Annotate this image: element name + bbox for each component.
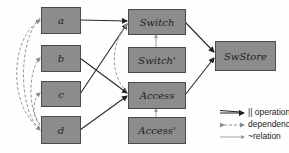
legend-lines <box>220 111 244 138</box>
node-access-prime: Access' <box>128 117 186 144</box>
node-c-label: c <box>58 89 64 100</box>
edge-d-c <box>34 93 40 124</box>
legend-operation: || operation <box>248 107 289 117</box>
node-a: a <box>41 7 81 34</box>
node-c: c <box>41 81 81 107</box>
node-swstore: SwStore <box>215 41 276 71</box>
edge-d-access <box>80 96 127 130</box>
node-b: b <box>41 45 81 72</box>
edge-switch-swstore <box>185 22 214 52</box>
legend-relation: ~relation <box>248 131 281 141</box>
edge-access-switch <box>114 24 127 92</box>
edge-a-switch <box>80 20 127 21</box>
edge-d-a <box>17 20 40 128</box>
dependency-edges <box>17 18 127 130</box>
node-switch-prime-label: Switch' <box>138 55 175 66</box>
node-access-prime-label: Access' <box>138 125 175 136</box>
node-switch-prime: Switch' <box>128 47 186 73</box>
node-swstore-label: SwStore <box>224 51 267 62</box>
edge-b-access <box>80 58 127 93</box>
node-b-label: b <box>58 53 64 64</box>
diagram-canvas: a b c d Switch Switch' Access Access' Sw… <box>0 0 289 153</box>
node-d: d <box>41 116 81 144</box>
node-a-label: a <box>58 15 64 26</box>
node-switch: Switch <box>128 9 186 35</box>
node-switch-label: Switch <box>140 17 175 28</box>
legend-dependency: dependency <box>248 119 289 129</box>
edge-d-b <box>31 58 40 126</box>
node-d-label: d <box>58 125 64 136</box>
node-access: Access <box>128 82 186 109</box>
edge-access-swstore <box>185 58 214 95</box>
node-access-label: Access <box>140 90 175 101</box>
operation-edges <box>80 20 214 130</box>
